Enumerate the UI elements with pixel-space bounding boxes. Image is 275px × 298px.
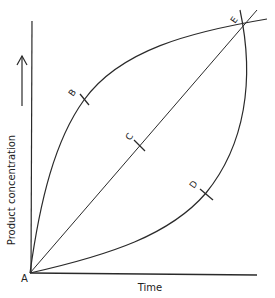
label-e: E (228, 14, 240, 25)
y-axis (31, 21, 32, 273)
curve-abe (30, 19, 267, 273)
label-b: B (66, 87, 78, 98)
curve-ade (30, 10, 247, 273)
up-arrow-icon (17, 56, 27, 106)
label-c: C (123, 131, 135, 142)
diagram-svg: Product concentration Time A B C D E (0, 0, 275, 298)
label-a: A (21, 273, 28, 284)
diagram-canvas: Product concentration Time A B C D E (0, 0, 275, 298)
x-axis-label: Time (137, 282, 162, 293)
label-d: D (187, 179, 199, 190)
y-axis-label: Product concentration (6, 135, 17, 245)
line-ace (30, 10, 257, 273)
x-axis (30, 273, 257, 275)
